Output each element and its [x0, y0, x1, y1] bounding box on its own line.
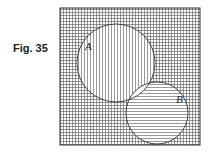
- set-b-label: B: [176, 93, 183, 105]
- venn-diagram: A B: [0, 0, 211, 154]
- set-a-label: A: [84, 40, 92, 52]
